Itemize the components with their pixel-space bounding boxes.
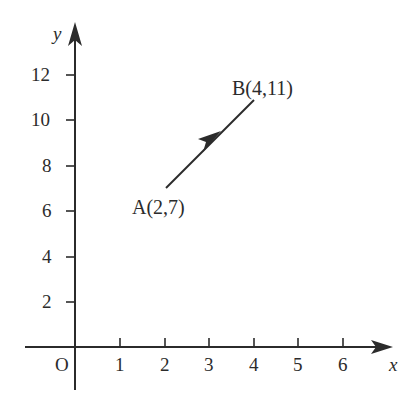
x-tick-label-1: 1 bbox=[115, 355, 125, 374]
y-tick-label-12: 12 bbox=[31, 65, 50, 84]
y-tick-label-6: 6 bbox=[42, 201, 52, 220]
y-tick-label-4: 4 bbox=[42, 247, 52, 266]
plot-canvas bbox=[0, 0, 416, 413]
vector-ab-line bbox=[166, 100, 254, 188]
x-tick-label-5: 5 bbox=[293, 355, 303, 374]
x-axis-label: x bbox=[389, 355, 397, 374]
x-tick-label-6: 6 bbox=[338, 355, 348, 374]
x-tick-label-4: 4 bbox=[249, 355, 259, 374]
y-axis-label: y bbox=[53, 24, 61, 43]
x-tick-label-2: 2 bbox=[160, 355, 170, 374]
point-label-a: A(2,7) bbox=[132, 197, 185, 217]
y-tick-label-8: 8 bbox=[42, 156, 52, 175]
vector-ab-arrowhead bbox=[198, 131, 221, 152]
point-label-b: B(4,11) bbox=[232, 78, 293, 98]
vector-diagram-figure: 12 10 8 6 4 2 1 2 3 4 5 6 O y x A(2,7) B… bbox=[0, 0, 416, 413]
y-axis-ticks bbox=[66, 75, 75, 302]
x-tick-label-3: 3 bbox=[204, 355, 214, 374]
y-tick-label-10: 10 bbox=[31, 110, 50, 129]
origin-label: O bbox=[55, 355, 69, 374]
x-axis-ticks bbox=[120, 338, 343, 347]
y-tick-label-2: 2 bbox=[42, 292, 52, 311]
